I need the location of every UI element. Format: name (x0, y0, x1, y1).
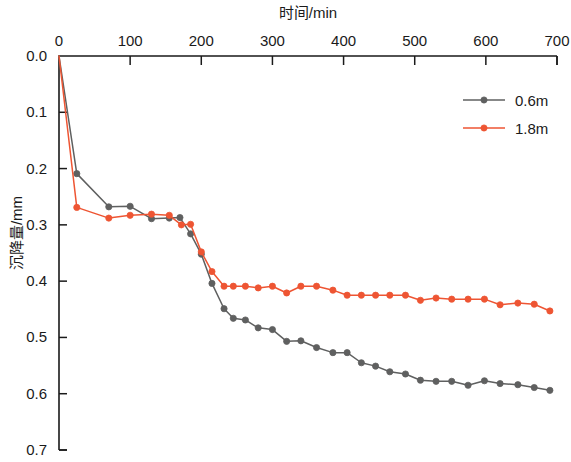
data-point (269, 326, 275, 332)
data-point (387, 292, 393, 298)
data-point (166, 212, 172, 218)
series-1-8m (59, 56, 553, 314)
y-axis-tick-label: 0.2 (26, 160, 47, 177)
data-point (358, 360, 364, 366)
data-point (284, 290, 290, 296)
settlement-vs-time-line-chart: 01002003004005006007000.00.10.20.30.40.5… (0, 0, 571, 462)
x-axis-tick-label: 200 (189, 32, 214, 49)
data-point (547, 308, 553, 314)
y-axis-tick-label: 0.6 (26, 385, 47, 402)
x-axis-tick-label: 600 (473, 32, 498, 49)
data-point (417, 377, 423, 383)
x-axis-tick-label: 0 (55, 32, 63, 49)
data-point (531, 384, 537, 390)
data-point (255, 285, 261, 291)
data-point (358, 292, 364, 298)
data-point (515, 382, 521, 388)
data-point (298, 338, 304, 344)
data-point (372, 363, 378, 369)
x-axis-title: 时间/min (279, 4, 337, 21)
data-point (481, 378, 487, 384)
data-point (106, 215, 112, 221)
data-point (148, 211, 154, 217)
data-point (515, 300, 521, 306)
y-axis-tick-label: 0.4 (26, 272, 47, 289)
y-axis-tick-label: 0.7 (26, 441, 47, 458)
series-line (59, 56, 550, 311)
data-point (127, 203, 133, 209)
data-point (74, 204, 80, 210)
data-point (497, 380, 503, 386)
data-point (198, 249, 204, 255)
y-axis-tick-label: 0.0 (26, 47, 47, 64)
series-line (59, 56, 550, 390)
y-axis-tick-label: 0.5 (26, 328, 47, 345)
data-point (284, 338, 290, 344)
data-point (230, 315, 236, 321)
data-point (372, 292, 378, 298)
data-point (178, 222, 184, 228)
data-point (465, 382, 471, 388)
data-point (313, 283, 319, 289)
data-point (221, 306, 227, 312)
data-point (417, 297, 423, 303)
legend-marker-swatch (481, 125, 487, 131)
data-point (230, 283, 236, 289)
x-axis-tick-label: 500 (402, 32, 427, 49)
data-point (269, 283, 275, 289)
x-axis-tick-label: 700 (544, 32, 569, 49)
data-point (330, 287, 336, 293)
data-point (221, 283, 227, 289)
legend-marker-swatch (481, 97, 487, 103)
data-point (497, 302, 503, 308)
data-point (209, 280, 215, 286)
data-point (481, 296, 487, 302)
y-axis-tick-label: 0.3 (26, 216, 47, 233)
data-point (465, 296, 471, 302)
data-point (402, 371, 408, 377)
series-0-6m (59, 56, 553, 393)
y-axis-tick-label: 0.1 (26, 103, 47, 120)
data-point (344, 292, 350, 298)
data-point (433, 295, 439, 301)
data-point (330, 350, 336, 356)
data-point (449, 378, 455, 384)
data-point (298, 283, 304, 289)
data-point (547, 387, 553, 393)
legend-label: 0.6m (515, 92, 548, 109)
settlement-time-chart-figure: 01002003004005006007000.00.10.20.30.40.5… (0, 0, 571, 462)
data-point (344, 350, 350, 356)
legend-entry-0-6m: 0.6m (463, 92, 548, 109)
legend-entry-1-8m: 1.8m (463, 120, 548, 137)
axis-frame (59, 56, 557, 450)
data-point (531, 301, 537, 307)
data-point (106, 204, 112, 210)
data-point (387, 369, 393, 375)
data-point (74, 171, 80, 177)
x-axis-tick-label: 100 (118, 32, 143, 49)
data-point (255, 325, 261, 331)
data-point (188, 221, 194, 227)
data-point (433, 378, 439, 384)
x-axis-tick-label: 400 (331, 32, 356, 49)
data-point (127, 212, 133, 218)
legend-label: 1.8m (515, 120, 548, 137)
data-point (242, 317, 248, 323)
x-axis-tick-label: 300 (260, 32, 285, 49)
y-axis-title: 沉降量/mm (8, 196, 25, 270)
data-point (402, 292, 408, 298)
data-point (177, 214, 183, 220)
data-point (209, 268, 215, 274)
data-point (242, 283, 248, 289)
data-point (313, 344, 319, 350)
data-point (449, 296, 455, 302)
